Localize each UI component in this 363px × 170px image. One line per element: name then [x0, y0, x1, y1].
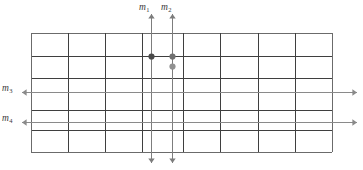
label-m3: m3	[2, 84, 12, 94]
arrow-left-m4	[22, 119, 27, 125]
label-m4-text: m	[2, 113, 9, 123]
point-m1-intersection	[148, 53, 154, 59]
label-m2: m2	[161, 3, 171, 13]
arrow-right-m3	[352, 89, 357, 95]
label-m2-subscript: 2	[168, 6, 171, 13]
label-m2-text: m	[161, 2, 168, 12]
arrow-down-m2	[169, 158, 175, 163]
point-m2-lower	[169, 63, 175, 69]
label-m4-subscript: 4	[9, 117, 12, 124]
arrow-down-m1	[148, 158, 154, 163]
label-m4: m4	[2, 114, 12, 124]
marked-lines-layer	[22, 14, 357, 163]
diagram-canvas	[0, 0, 363, 170]
label-m3-subscript: 3	[9, 87, 12, 94]
arrow-right-m4	[352, 119, 357, 125]
label-m1-subscript: 1	[146, 6, 149, 13]
label-m1: m1	[139, 3, 149, 13]
label-m3-text: m	[2, 83, 9, 93]
points-layer	[148, 53, 175, 69]
arrow-left-m3	[22, 89, 27, 95]
point-m2-intersection	[169, 53, 175, 59]
figure-root: m1 m2 m3 m4	[0, 0, 363, 170]
arrow-up-m2	[169, 14, 175, 19]
arrow-up-m1	[148, 14, 154, 19]
label-m1-text: m	[139, 2, 146, 12]
